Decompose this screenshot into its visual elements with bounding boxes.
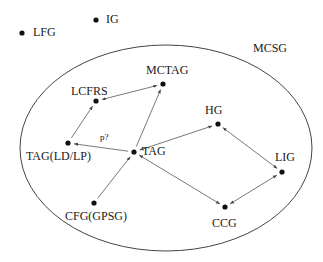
node-label-ccg: CCG [212,217,237,229]
node-dot-ccg [222,204,227,209]
node-label-tag_ldlp: TAG(LD/LP) [26,150,91,162]
edge-cfg-to-tag [98,157,131,199]
edge-mctag-to-lcfrs [102,85,157,99]
node-label-lcfrs: LCFRS [71,85,108,97]
edge-ccg-to-lig [230,175,277,204]
diagram-canvas [0,0,323,262]
node-dot-tag_ldlp [65,140,70,145]
edge-hg-to-lig [223,128,277,169]
edge-tag_ldlp-to-lcfrs [71,106,92,138]
node-dot-lfg [19,30,24,35]
node-label-lig: LIG [275,151,295,163]
node-label-hg: HG [205,104,222,116]
node-label-ig: IG [106,13,119,25]
edge-label-p: p? [100,131,109,143]
node-dot-ig [93,17,98,22]
node-label-mctag: MCTAG [146,64,188,76]
node-dot-cfg [91,200,96,205]
region-label-mcsg: MCSG [253,42,287,54]
edge-tag-to-ccg [139,155,220,204]
node-dot-hg [215,121,220,126]
node-dot-lcfrs [93,98,98,103]
node-label-lfg: LFG [33,26,56,38]
edges-group [71,85,277,203]
node-label-tag: TAG [142,145,166,157]
node-label-cfg: CFG(GPSG) [65,210,127,222]
node-dot-lig [279,169,284,174]
edge-tag-to-mctag [136,90,160,147]
node-dot-mctag [160,81,165,86]
node-dot-tag [131,149,136,154]
nodes-group [19,17,284,209]
